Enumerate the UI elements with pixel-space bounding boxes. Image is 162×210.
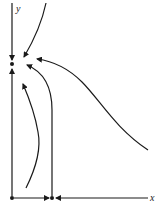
y-axis-label: y	[15, 3, 21, 14]
trajectory-from-top	[24, 3, 46, 57]
fixed-point-origin	[10, 196, 14, 200]
fixed-point-x-axis	[50, 196, 54, 200]
phase-portrait-diagram: y x	[0, 0, 162, 210]
trajectory-from-right	[37, 59, 148, 150]
trajectory-bulging	[23, 84, 39, 188]
x-axis-label: x	[149, 192, 155, 203]
fixed-point-y-axis	[10, 62, 14, 66]
